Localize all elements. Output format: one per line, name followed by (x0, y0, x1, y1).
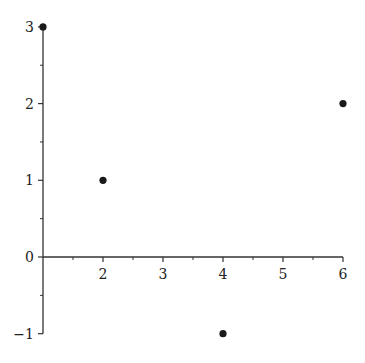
data-point (99, 177, 106, 184)
x-tick-label: 3 (159, 266, 168, 282)
y-tick-label: 3 (25, 19, 34, 35)
x-tick-label: 5 (279, 266, 288, 282)
ticks (38, 27, 343, 334)
x-tick-label: 6 (339, 266, 348, 282)
data-point (339, 100, 346, 107)
data-point (219, 330, 226, 337)
x-tick-label: 4 (219, 266, 228, 282)
scatter-plot: −1012323456 (0, 0, 365, 363)
data-points (39, 23, 346, 337)
tick-labels: −1012323456 (13, 19, 347, 342)
data-point (39, 23, 46, 30)
y-tick-label: 2 (25, 96, 34, 112)
y-tick-label: 1 (25, 172, 34, 188)
y-tick-label: 0 (25, 249, 34, 265)
y-tick-label: −1 (13, 326, 34, 342)
axes (43, 27, 343, 334)
x-tick-label: 2 (99, 266, 108, 282)
